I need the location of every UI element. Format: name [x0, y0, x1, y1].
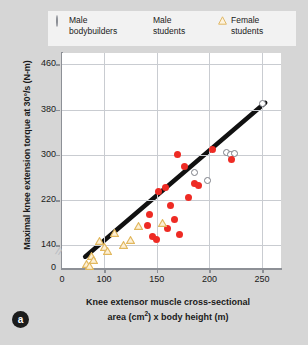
data-point-red-circle [181, 163, 188, 170]
chart-legend: Male bodybuilders Male students Female s… [48, 11, 296, 46]
legend-label-line1: Female [231, 15, 263, 26]
data-point-red-circle [228, 156, 235, 163]
data-point-red-circle [185, 194, 192, 201]
gridline-vertical [262, 53, 263, 268]
y-tick-mark [56, 245, 60, 247]
data-point-triangle [89, 250, 98, 258]
legend-label-line1: Male [69, 15, 117, 26]
red-dot-icon [140, 16, 149, 25]
legend-label-line1: Male [153, 15, 185, 26]
legend-item-male-students: Male students [140, 15, 218, 37]
gridline-horizontal [62, 64, 281, 65]
y-tick-label: 0 [22, 262, 56, 272]
x-axis-title-line2-post: ) x body height (m) [148, 312, 229, 322]
x-tick-mark [104, 269, 106, 273]
panel-label: a [12, 311, 29, 328]
gridline-horizontal [62, 110, 281, 111]
open-circle-icon [56, 16, 65, 25]
x-axis-title-line2-pre: area (cm [107, 312, 144, 322]
legend-item-male-bodybuilders: Male bodybuilders [56, 15, 140, 37]
y-tick-label: 380 [22, 104, 56, 114]
x-axis-title: Knee extensor muscle cross-sectional are… [40, 296, 296, 323]
data-point-open-circle [204, 177, 211, 184]
triangle-icon [218, 16, 227, 25]
x-tick-label: 200 [189, 274, 229, 284]
y-tick-label: 220 [22, 194, 56, 204]
y-tick-label: 300 [22, 149, 56, 159]
legend-label-male-bodybuilders: Male bodybuilders [69, 15, 117, 37]
data-point-triangle [103, 241, 112, 249]
x-tick-mark [262, 269, 264, 273]
data-point-triangle [158, 213, 167, 221]
plot-area [62, 53, 281, 268]
y-tick-mark [56, 155, 60, 157]
gridline-horizontal [62, 200, 281, 201]
data-point-red-circle [162, 184, 169, 191]
y-tick-label: 460 [22, 58, 56, 68]
data-point-red-circle [146, 211, 153, 218]
data-point-red-circle [209, 146, 216, 153]
legend-label-line2: students [153, 26, 185, 37]
y-tick-label: 140 [22, 239, 56, 249]
x-tick-mark [209, 269, 211, 273]
data-point-triangle [126, 230, 135, 238]
x-tick-mark [157, 269, 159, 273]
legend-label-line2: bodybuilders [69, 26, 117, 37]
legend-item-female-students: Female students [218, 15, 294, 37]
y-tick-mark [56, 64, 60, 66]
x-axis-line [61, 268, 282, 270]
x-tick-label: 150 [137, 274, 177, 284]
figure-panel: Male bodybuilders Male students Female s… [0, 0, 308, 345]
x-tick-label: 250 [242, 274, 282, 284]
legend-label-male-students: Male students [153, 15, 185, 37]
x-tick-label: 100 [84, 274, 124, 284]
data-point-open-circle [259, 100, 266, 107]
data-point-red-circle [176, 231, 183, 238]
gridline-horizontal [62, 155, 281, 156]
y-tick-mark [56, 110, 60, 112]
data-point-triangle [134, 216, 143, 224]
y-tick-mark [56, 200, 60, 202]
data-point-red-circle [144, 222, 151, 229]
x-axis-title-line1: Knee extensor muscle cross-sectional [86, 297, 250, 307]
legend-label-female-students: Female students [231, 15, 263, 37]
data-point-triangle [110, 223, 119, 231]
y-axis-tick-labels: 0140220300380460 [18, 0, 56, 345]
gridline-vertical [209, 53, 210, 268]
x-tick-label: 0 [42, 274, 82, 284]
legend-label-line2: students [231, 26, 263, 37]
